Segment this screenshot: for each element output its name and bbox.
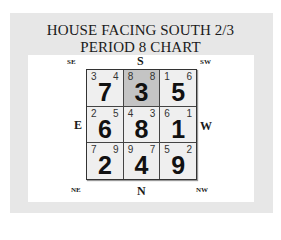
base-star: 1	[160, 116, 196, 142]
palace-nw: 5 2 9	[160, 143, 196, 179]
base-star: 7	[87, 79, 123, 105]
palace-ne: 7 9 2	[87, 143, 123, 179]
palace-n: 9 7 4	[124, 143, 160, 179]
base-star: 8	[124, 116, 160, 142]
base-star: 9	[160, 152, 196, 178]
label-e: E	[74, 118, 82, 133]
palace-sw: 1 6 5	[160, 70, 196, 106]
palace-s: 8 8 3	[124, 70, 160, 106]
base-star: 4	[124, 152, 160, 178]
label-se: SE	[67, 58, 76, 66]
label-w: W	[200, 119, 212, 134]
label-n: N	[137, 184, 146, 199]
palace-center: 4 3 8	[124, 107, 160, 143]
base-star: 2	[87, 152, 123, 178]
palace-e: 2 5 6	[87, 107, 123, 143]
label-ne: NE	[71, 186, 81, 194]
palace-w: 6 1 1	[160, 107, 196, 143]
base-star: 3	[124, 79, 160, 105]
flying-star-grid: 3 4 7 8 8 3 1 6 5 2 5 6 4 3 8 6 1 1 7 9 …	[86, 69, 197, 180]
base-star: 6	[87, 116, 123, 142]
palace-se: 3 4 7	[87, 70, 123, 106]
base-star: 5	[160, 79, 196, 105]
chart-title: HOUSE FACING SOUTH 2/3	[0, 22, 281, 39]
label-sw: SW	[200, 58, 211, 66]
label-s: S	[137, 54, 144, 69]
label-nw: NW	[196, 186, 208, 194]
